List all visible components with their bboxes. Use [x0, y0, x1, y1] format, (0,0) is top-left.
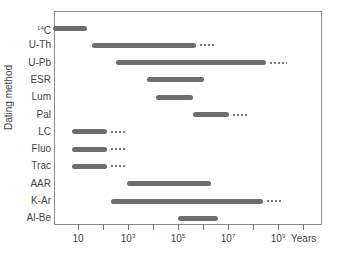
range-bar	[116, 60, 266, 65]
x-tick	[153, 225, 154, 230]
category-label: Lum	[32, 91, 51, 103]
y-axis-label: Dating method	[3, 65, 14, 130]
category-label: 14C	[37, 22, 51, 37]
x-tick-label: 105	[171, 233, 185, 244]
category-label: ESR	[30, 74, 51, 86]
range-extension-dots	[266, 200, 282, 202]
range-bar	[193, 112, 229, 117]
range-extension-dots	[269, 62, 287, 64]
x-tick	[128, 225, 129, 230]
range-bar	[127, 181, 211, 186]
x-tick	[78, 225, 79, 230]
range-extension-dots	[110, 131, 126, 133]
range-extension-dots	[110, 148, 126, 150]
range-bar	[53, 26, 87, 31]
category-label: Fluo	[32, 143, 51, 155]
range-bar	[72, 129, 107, 134]
x-tick-label: 109	[271, 233, 285, 244]
range-bar	[92, 43, 196, 48]
range-bar	[147, 77, 205, 82]
category-label: AAR	[30, 178, 51, 190]
x-tick-label: 10	[72, 233, 83, 244]
x-tick-label: 107	[221, 233, 235, 244]
category-label: U-Th	[29, 39, 51, 51]
range-extension-dots	[110, 165, 126, 167]
range-bar	[72, 164, 107, 169]
x-tick	[278, 225, 279, 230]
x-tick	[103, 225, 104, 230]
range-bar	[178, 216, 218, 221]
range-extension-dots	[199, 44, 215, 46]
x-tick-label: 103	[121, 233, 135, 244]
x-tick	[178, 225, 179, 230]
category-label: LC	[38, 126, 51, 138]
x-tick	[228, 225, 229, 230]
x-tick	[303, 225, 304, 230]
x-tick	[203, 225, 204, 230]
category-label: Trac	[31, 160, 51, 172]
category-label: U-Pb	[28, 57, 51, 69]
category-label: Al-Be	[27, 212, 51, 224]
range-bar	[156, 95, 194, 100]
range-bar	[72, 147, 107, 152]
x-axis-unit-label: Years	[291, 233, 316, 244]
range-bar	[111, 199, 264, 204]
range-extension-dots	[232, 114, 246, 116]
category-label: Pal	[37, 109, 51, 121]
category-label: K-Ar	[31, 195, 51, 207]
x-tick	[253, 225, 254, 230]
